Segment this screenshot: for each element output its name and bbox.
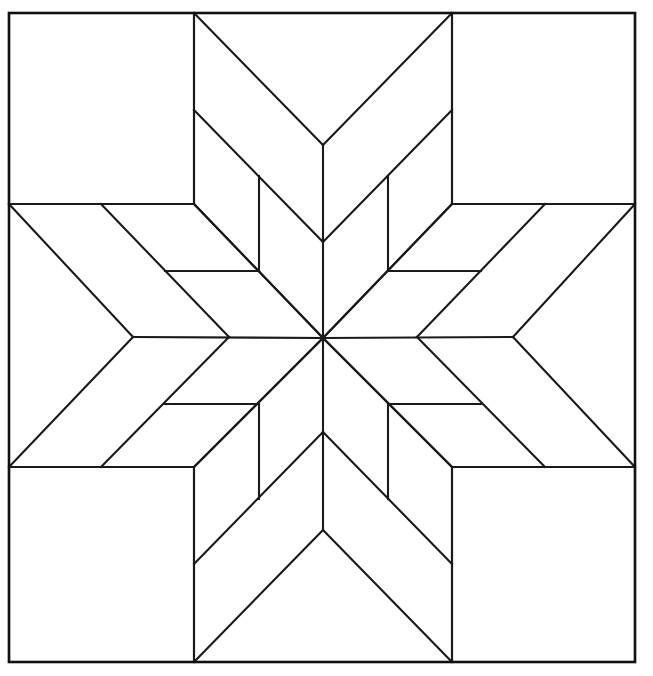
corner-square-bottom-left	[9, 467, 194, 662]
quilt-block-diagram: Eight-Pointed Star Quilt Block Coloring …	[0, 0, 653, 676]
corner-square-bottom-right	[452, 467, 635, 662]
corner-square-top-left	[9, 13, 194, 204]
seam-lf-spine	[133, 337, 323, 338]
seam-rt-spine	[323, 337, 513, 338]
corner-square-top-right	[452, 13, 635, 204]
